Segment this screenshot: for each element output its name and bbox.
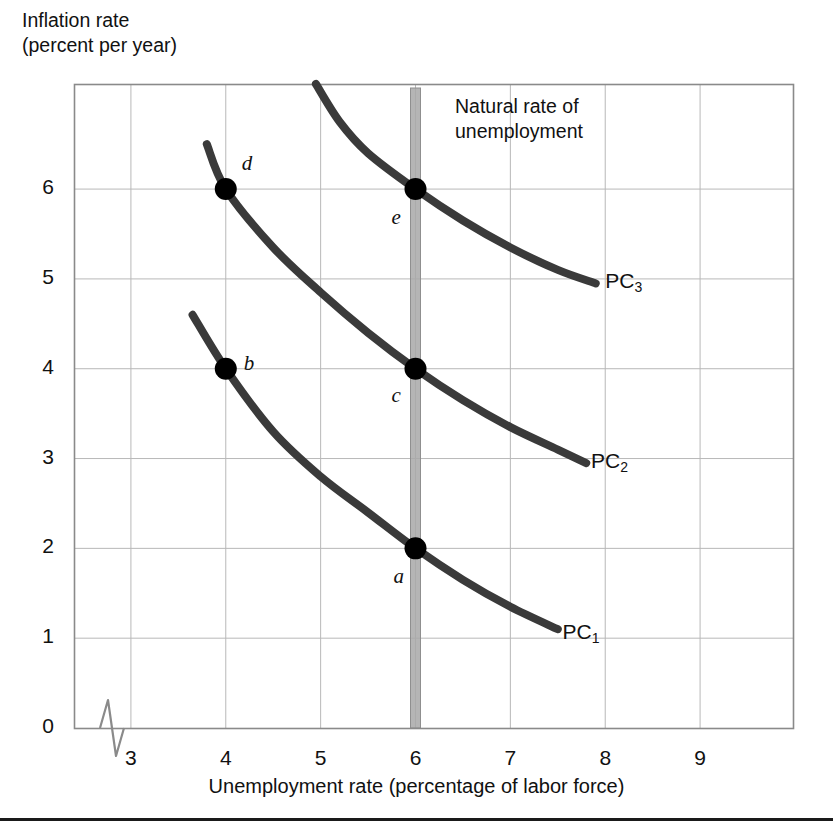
data-point-d bbox=[215, 178, 237, 200]
x-tick-label-7: 7 bbox=[493, 746, 527, 770]
y-tick-label-5: 5 bbox=[20, 265, 54, 289]
curve-label-pc3: PC3 bbox=[605, 269, 642, 293]
point-label-a: a bbox=[394, 564, 405, 589]
y-tick-label-0: 0 bbox=[20, 714, 54, 738]
data-point-c bbox=[405, 358, 427, 380]
point-label-e: e bbox=[392, 205, 401, 230]
x-tick-label-4: 4 bbox=[209, 746, 243, 770]
point-label-c: c bbox=[392, 383, 401, 408]
point-label-d: d bbox=[242, 151, 253, 176]
y-tick-label-3: 3 bbox=[20, 445, 54, 469]
x-tick-label-8: 8 bbox=[588, 746, 622, 770]
y-tick-label-1: 1 bbox=[20, 624, 54, 648]
data-point-e bbox=[405, 178, 427, 200]
y-tick-label-6: 6 bbox=[20, 175, 54, 199]
phillips-curve-figure: Inflation rate(percent per year) Natural… bbox=[0, 0, 833, 828]
data-point-a bbox=[405, 537, 427, 559]
natural-rate-label-line2: unemployment bbox=[455, 120, 583, 142]
curve-label-pc1: PC1 bbox=[563, 620, 600, 644]
plot-canvas bbox=[0, 0, 833, 828]
gridlines bbox=[74, 84, 794, 728]
natural-rate-label-line1: Natural rate of bbox=[455, 95, 579, 117]
x-tick-label-3: 3 bbox=[114, 746, 148, 770]
natural-rate-label: Natural rate ofunemployment bbox=[455, 94, 583, 144]
y-tick-label-2: 2 bbox=[20, 534, 54, 558]
plot-frame bbox=[75, 85, 794, 729]
x-tick-label-6: 6 bbox=[399, 746, 433, 770]
data-point-b bbox=[215, 358, 237, 380]
x-tick-label-9: 9 bbox=[683, 746, 717, 770]
y-tick-label-4: 4 bbox=[20, 355, 54, 379]
x-tick-label-5: 5 bbox=[304, 746, 338, 770]
curve-label-pc2: PC2 bbox=[591, 449, 628, 473]
x-axis-title: Unemployment rate (percentage of labor f… bbox=[0, 775, 833, 798]
figure-bottom-rule bbox=[0, 818, 833, 821]
point-label-b: b bbox=[244, 351, 255, 376]
